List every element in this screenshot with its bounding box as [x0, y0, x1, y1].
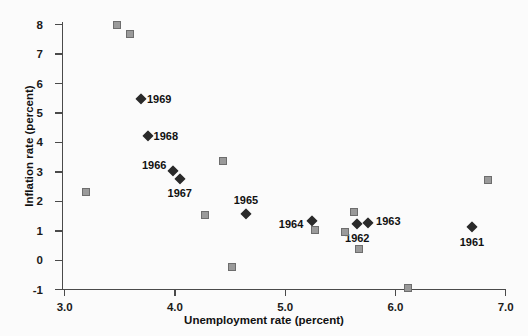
data-point-diamond [306, 215, 318, 227]
plot-area: 196919681966196719651964196219631961 [0, 0, 528, 336]
data-point-label: 1961 [460, 236, 484, 248]
y-axis-title: Inflation rate (percent) [23, 36, 35, 256]
data-point-diamond [351, 218, 363, 230]
data-point-label: 1965 [234, 194, 258, 206]
data-point-square [201, 211, 209, 219]
data-point-square [82, 188, 90, 196]
data-point-label: 1966 [142, 159, 166, 171]
data-point-label: 1967 [168, 187, 192, 199]
data-point-diamond [466, 221, 478, 233]
data-point-label: 1969 [147, 93, 171, 105]
data-point-square [404, 284, 412, 292]
data-point-square [228, 263, 236, 271]
data-point-square [311, 226, 319, 234]
x-axis-title: Unemployment rate (percent) [0, 314, 528, 326]
data-point-square [113, 21, 121, 29]
data-point-label: 1964 [279, 218, 303, 230]
data-point-diamond [142, 130, 154, 142]
data-point-square [126, 30, 134, 38]
data-point-diamond [240, 208, 252, 220]
data-point-label: 1968 [154, 130, 178, 142]
data-point-square [350, 208, 358, 216]
data-point-square [341, 228, 349, 236]
data-point-square [219, 157, 227, 165]
data-point-square [484, 176, 492, 184]
data-point-diamond [135, 93, 147, 105]
data-point-diamond [174, 173, 186, 185]
scatter-chart: 876543210-1 3.04.05.06.07.0 196919681966… [0, 0, 528, 336]
data-point-diamond [362, 217, 374, 229]
data-point-label: 1963 [376, 215, 400, 227]
data-point-square [355, 245, 363, 253]
